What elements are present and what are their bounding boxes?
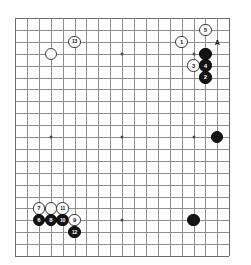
stone-move-number: 1	[180, 39, 183, 45]
star-point	[49, 136, 52, 139]
stone-move-number: 8	[49, 217, 52, 223]
grid-line-vertical	[110, 18, 111, 256]
go-stone-white-9[interactable]: 9	[68, 214, 80, 226]
star-point	[121, 136, 124, 139]
stone-move-number: 13	[72, 39, 77, 44]
grid-line-vertical	[98, 18, 99, 256]
star-point	[121, 52, 124, 55]
stone-move-number: 10	[60, 218, 65, 223]
stone-move-number: 9	[73, 217, 76, 223]
go-stone-white-3[interactable]: 3	[187, 59, 199, 71]
grid-line-vertical	[86, 18, 87, 256]
go-stone-black-4[interactable]: 4	[199, 59, 211, 71]
go-stone-black-2[interactable]: 2	[199, 71, 211, 83]
go-stone-white-13[interactable]: 13	[68, 36, 80, 48]
go-stone-white-1[interactable]: 1	[175, 36, 187, 48]
go-stone-white[interactable]	[45, 202, 57, 214]
go-stone-black[interactable]	[199, 48, 211, 60]
go-stone-white-5[interactable]: 5	[199, 24, 211, 36]
star-point	[192, 136, 195, 139]
go-stone-black[interactable]	[211, 131, 223, 143]
stone-move-number: 2	[204, 74, 207, 80]
grid-line-vertical	[170, 18, 171, 256]
stone-move-number: 7	[37, 205, 40, 211]
go-stone-black-12[interactable]: 12	[68, 226, 80, 238]
stone-move-number: 5	[204, 27, 207, 33]
grid-line-vertical	[229, 18, 230, 256]
grid-line-vertical	[15, 18, 16, 256]
grid-line-vertical	[182, 18, 183, 256]
go-stone-black-10[interactable]: 10	[56, 214, 68, 226]
go-stone-white-11[interactable]: 11	[56, 202, 68, 214]
stone-move-number: 6	[37, 217, 40, 223]
stone-move-number: 4	[204, 63, 207, 69]
board-marker-a: A	[215, 38, 220, 45]
grid-line-horizontal	[15, 256, 229, 257]
star-point	[121, 219, 124, 222]
grid-line-vertical	[146, 18, 147, 256]
grid-line-vertical	[134, 18, 135, 256]
go-stone-white-7[interactable]: 7	[33, 202, 45, 214]
go-diagram: 13153427116810912A	[0, 0, 251, 265]
stone-move-number: 3	[192, 63, 195, 69]
stone-move-number: 11	[60, 206, 65, 211]
go-stone-black-8[interactable]: 8	[45, 214, 57, 226]
stone-move-number: 12	[72, 230, 77, 235]
grid-line-vertical	[27, 18, 28, 256]
go-board[interactable]: 13153427116810912A	[15, 18, 229, 256]
go-stone-white[interactable]	[45, 48, 57, 60]
grid-line-vertical	[158, 18, 159, 256]
go-stone-black[interactable]	[187, 214, 199, 226]
star-point	[192, 52, 195, 55]
go-stone-black-6[interactable]: 6	[33, 214, 45, 226]
